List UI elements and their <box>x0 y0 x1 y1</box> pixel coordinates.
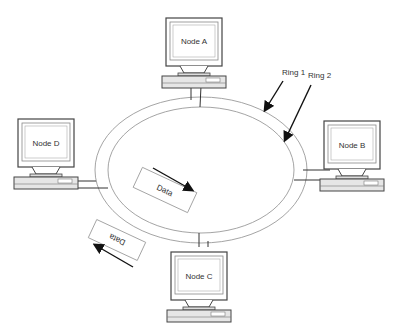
node-a: Node A <box>162 18 226 88</box>
node-a-label: Node A <box>181 37 208 46</box>
node-c-label: Node C <box>185 272 212 281</box>
node-d: Node D <box>14 119 78 189</box>
ring-1-label: Ring 1 <box>282 68 306 77</box>
ring-2-pointer-arrow <box>285 85 311 140</box>
ring-1 <box>95 97 307 243</box>
ring-2-label: Ring 2 <box>308 71 332 80</box>
data-packet-outer: Data <box>88 220 145 261</box>
node-c: Node C <box>167 252 231 322</box>
node-b: Node B <box>320 121 384 191</box>
ring-2 <box>108 107 294 233</box>
node-d-label: Node D <box>32 139 59 148</box>
node-connectors <box>75 86 330 247</box>
ring-1-pointer-arrow <box>265 81 283 110</box>
node-b-label: Node B <box>339 141 366 150</box>
ring-network-diagram: Node A Node B Node D Node C Ring 1 Ring … <box>0 0 397 336</box>
